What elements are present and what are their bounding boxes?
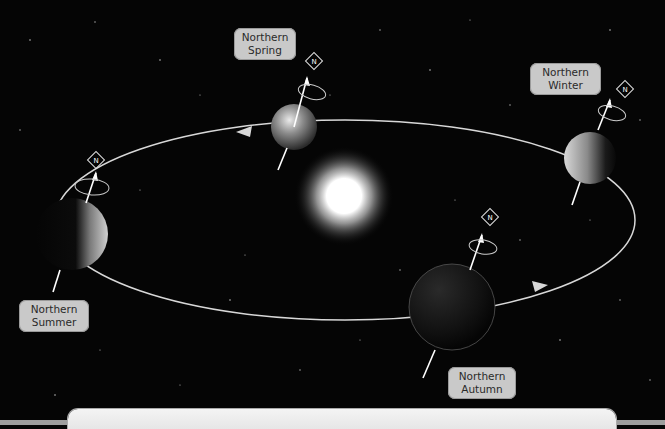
svg-text:N: N [311, 58, 316, 66]
svg-text:N: N [93, 157, 98, 165]
earth-autumn: N [409, 209, 498, 378]
svg-text:N: N [487, 214, 492, 222]
caption-panel [68, 409, 616, 429]
svg-text:N: N [622, 86, 627, 94]
label-northern-spring: Northern Spring [234, 28, 296, 60]
earth-summer: N [36, 152, 110, 292]
earth-spring: N [271, 53, 327, 170]
label-northern-autumn: Northern Autumn [448, 367, 516, 399]
label-northern-winter: Northern Winter [530, 63, 601, 95]
orbit-arrow-icon [532, 281, 548, 292]
earth-winter: N [564, 81, 633, 205]
sun [294, 146, 394, 246]
label-northern-summer: Northern Summer [19, 300, 89, 332]
